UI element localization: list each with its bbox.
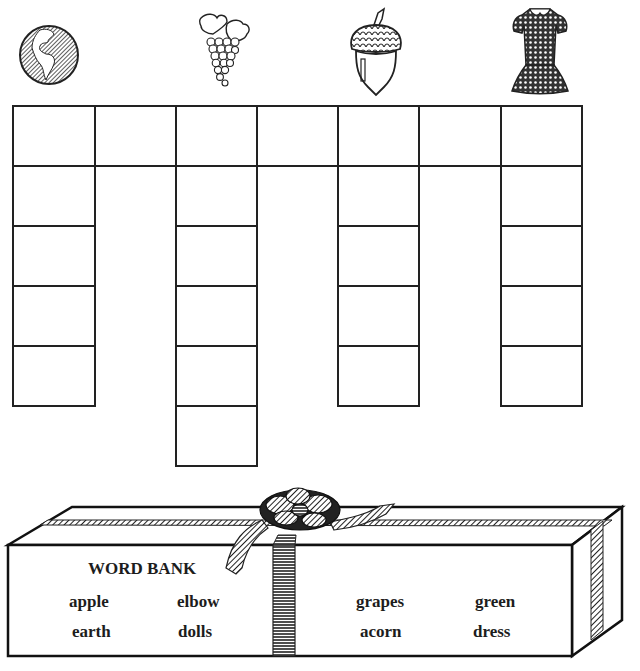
word-bank-title: WORD BANK xyxy=(88,560,196,577)
cell-r4-c3[interactable] xyxy=(175,285,258,347)
cell-r1-c7[interactable] xyxy=(500,105,583,167)
cell-r4-c7[interactable] xyxy=(500,285,583,347)
cell-r5-c5[interactable] xyxy=(337,345,420,407)
word-grapes: grapes xyxy=(356,593,404,610)
grapes-icon xyxy=(197,12,253,92)
dress-icon xyxy=(508,5,572,97)
word-earth: earth xyxy=(72,623,111,640)
cell-r1-c5[interactable] xyxy=(337,105,420,167)
cell-r1-c2[interactable] xyxy=(94,105,177,167)
cell-r1-c4[interactable] xyxy=(256,105,339,167)
acorn-icon xyxy=(348,5,404,99)
cell-r2-c1[interactable] xyxy=(12,165,96,227)
cell-r3-c5[interactable] xyxy=(337,225,420,287)
cell-r4-c1[interactable] xyxy=(12,285,96,347)
cell-r5-c1[interactable] xyxy=(12,345,96,407)
word-apple: apple xyxy=(69,593,109,610)
cell-r5-c3[interactable] xyxy=(175,345,258,407)
cell-r5-c7[interactable] xyxy=(500,345,583,407)
word-green: green xyxy=(475,593,515,610)
cell-r1-c6[interactable] xyxy=(418,105,502,167)
word-dolls: dolls xyxy=(178,623,212,640)
globe-icon xyxy=(18,24,80,86)
word-dress: dress xyxy=(473,623,510,640)
cell-r1-c1[interactable] xyxy=(12,105,96,167)
cell-r2-c5[interactable] xyxy=(337,165,420,227)
cell-r2-c7[interactable] xyxy=(500,165,583,227)
word-acorn: acorn xyxy=(360,623,402,640)
cell-r1-c3[interactable] xyxy=(175,105,258,167)
cell-r3-c1[interactable] xyxy=(12,225,96,287)
cell-r3-c7[interactable] xyxy=(500,225,583,287)
cell-r6-c3[interactable] xyxy=(175,405,258,467)
cell-r4-c5[interactable] xyxy=(337,285,420,347)
word-elbow: elbow xyxy=(177,593,220,610)
cell-r3-c3[interactable] xyxy=(175,225,258,287)
cell-r2-c3[interactable] xyxy=(175,165,258,227)
